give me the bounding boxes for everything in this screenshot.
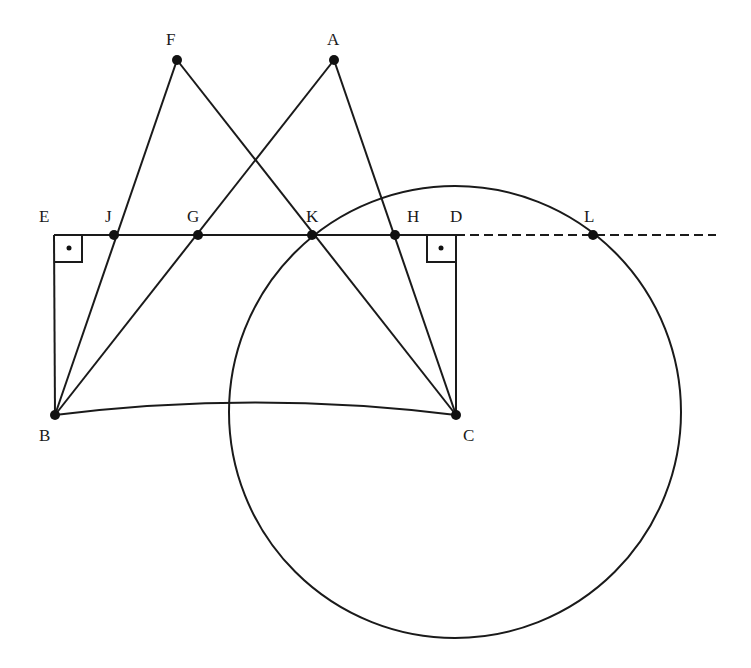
label-c: C bbox=[463, 426, 474, 445]
segment-fc bbox=[177, 60, 456, 415]
points bbox=[50, 55, 598, 420]
right-angle-mark-e bbox=[54, 235, 82, 262]
label-f: F bbox=[166, 30, 175, 49]
label-e: E bbox=[39, 207, 49, 226]
label-l: L bbox=[584, 207, 594, 226]
arc-bc bbox=[55, 403, 456, 416]
label-j: J bbox=[105, 207, 112, 226]
point-b bbox=[50, 410, 60, 420]
label-d: D bbox=[450, 207, 462, 226]
point-l bbox=[588, 230, 598, 240]
point-c bbox=[451, 410, 461, 420]
point-f bbox=[172, 55, 182, 65]
label-b: B bbox=[39, 426, 50, 445]
label-k: K bbox=[306, 207, 319, 226]
point-g bbox=[193, 230, 203, 240]
point-h bbox=[390, 230, 400, 240]
point-a bbox=[329, 55, 339, 65]
geometry-diagram: F A E J G K H D L B C bbox=[0, 0, 751, 668]
label-g: G bbox=[187, 207, 199, 226]
label-h: H bbox=[407, 207, 419, 226]
label-a: A bbox=[327, 30, 340, 49]
point-k bbox=[307, 230, 317, 240]
right-angle-mark-d bbox=[427, 235, 456, 262]
point-j bbox=[109, 230, 119, 240]
